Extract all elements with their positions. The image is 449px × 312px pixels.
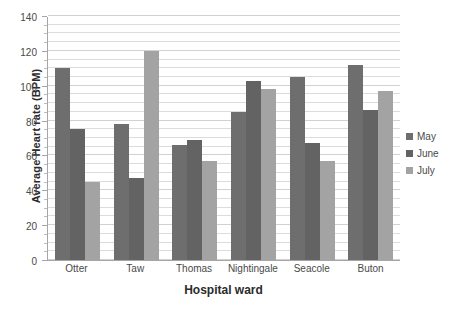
x-tick-label: Taw [106, 263, 165, 274]
legend-item[interactable]: May [406, 128, 439, 145]
bar [70, 129, 85, 260]
bar-chart: Average Heart rate (BPM) 020406080100120… [0, 0, 449, 312]
legend-item[interactable]: June [406, 145, 439, 162]
bar [202, 161, 217, 260]
y-tick-label: 40 [26, 186, 37, 197]
legend-label: June [417, 148, 439, 159]
legend-label: May [417, 131, 436, 142]
y-tick-label: 60 [26, 151, 37, 162]
gridline-major [48, 15, 400, 16]
y-tick-label: 0 [31, 256, 37, 267]
legend-label: July [417, 165, 435, 176]
plot-area [47, 17, 400, 261]
x-axis-title: Hospital ward [47, 283, 400, 297]
bar [55, 68, 70, 260]
bar [363, 110, 378, 260]
bar [172, 145, 187, 260]
bar [348, 65, 363, 260]
bar [305, 143, 320, 260]
bar-group [283, 17, 342, 260]
bar [85, 182, 100, 260]
y-tick-label: 20 [26, 221, 37, 232]
x-axis-tick-labels: OtterTawThomasNightingaleSeacoleButon [47, 263, 400, 274]
bar [187, 140, 202, 260]
bar-group [224, 17, 283, 260]
bar-group [341, 17, 400, 260]
y-tick-label: 80 [26, 116, 37, 127]
bar [320, 161, 335, 260]
bar-group [165, 17, 224, 260]
x-tick-label: Seacole [282, 263, 341, 274]
bar-groups [48, 17, 400, 260]
x-tick-label: Otter [47, 263, 106, 274]
bar [114, 124, 129, 260]
x-tick-label: Nightingale [223, 263, 282, 274]
legend: MayJuneJuly [406, 128, 439, 179]
bar [378, 91, 393, 260]
y-tick-label: 140 [20, 12, 37, 23]
x-tick-label: Thomas [165, 263, 224, 274]
y-axis-ticks: 020406080100120140 [0, 17, 47, 261]
legend-swatch-icon [406, 167, 413, 174]
bar [261, 89, 276, 260]
bar-group [48, 17, 107, 260]
bar [144, 51, 159, 260]
bar [246, 81, 261, 261]
y-tick-label: 120 [20, 46, 37, 57]
legend-swatch-icon [406, 150, 413, 157]
bar [231, 112, 246, 260]
x-tick-label: Buton [341, 263, 400, 274]
legend-item[interactable]: July [406, 162, 439, 179]
bar [129, 178, 144, 260]
bar-group [107, 17, 166, 260]
y-tick-label: 100 [20, 81, 37, 92]
bar [290, 77, 305, 260]
legend-swatch-icon [406, 133, 413, 140]
